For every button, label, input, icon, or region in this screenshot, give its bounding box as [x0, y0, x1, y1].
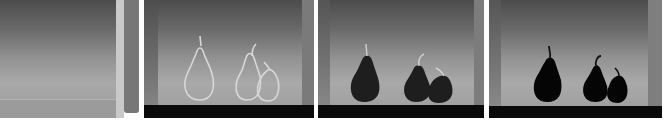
light-stripe: [116, 0, 124, 118]
shelf-edge: [0, 99, 116, 116]
panel-3-dark-pears: [318, 0, 484, 118]
dark-pears-drawing: [318, 0, 484, 118]
pear-outlines-drawing: [144, 0, 314, 118]
black-pears-drawing: [489, 0, 662, 118]
panel-4-black-silhouettes: [489, 0, 662, 118]
dark-stripe: [124, 0, 139, 113]
panel-2-pear-outlines: [144, 0, 314, 118]
panel-1-empty-scene: [0, 0, 140, 118]
